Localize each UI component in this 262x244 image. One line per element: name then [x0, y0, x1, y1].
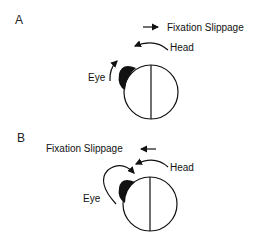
- head-label-a: Head: [170, 42, 194, 53]
- head-arrow-a-icon: [135, 43, 168, 50]
- diagram: A Fixation Slippage Head Eye B Fixation …: [0, 0, 262, 244]
- panel-a: A Fixation Slippage Head Eye: [15, 13, 244, 119]
- eye-arrow-a-icon: [110, 61, 117, 81]
- head-label-b: Head: [170, 162, 194, 173]
- panel-b-label: B: [17, 131, 25, 145]
- eye-label-b: Eye: [83, 193, 101, 204]
- panel-a-label: A: [15, 13, 23, 27]
- head-arrow-b-icon: [136, 160, 168, 167]
- panel-b: B Fixation Slippage Head Eye: [17, 131, 194, 231]
- fixation-slippage-label-b: Fixation Slippage: [46, 143, 123, 154]
- fixation-slippage-label-a: Fixation Slippage: [167, 22, 244, 33]
- eye-label-a: Eye: [88, 72, 106, 83]
